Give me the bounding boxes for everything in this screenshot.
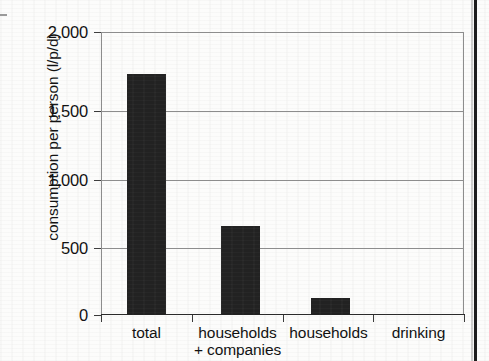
x-label-households: households — [283, 324, 374, 341]
y-tick-label-1500: 1,500 — [2, 103, 88, 120]
y-tick-mark-1500 — [94, 111, 101, 112]
x-tick-mark-right — [464, 315, 465, 322]
y-tick-mark-500 — [94, 248, 101, 249]
scan-corner-mark — [0, 14, 7, 16]
bar-chart: consumption per person (l/p/d) 2,000 1,5… — [0, 0, 474, 361]
x-label-total: total — [101, 324, 192, 341]
y-tick-mark-0 — [94, 315, 101, 316]
x-tick-mark-3 — [373, 315, 374, 322]
chart-screenshot: consumption per person (l/p/d) 2,000 1,5… — [0, 0, 489, 361]
bar-households-companies — [221, 226, 260, 315]
y-tick-mark-2000 — [94, 32, 101, 33]
x-label-households-line1: households — [289, 324, 367, 341]
page-edge-shadow — [471, 0, 473, 361]
y-tick-label-0: 0 — [2, 307, 88, 324]
x-label-households-companies: households + companies — [192, 324, 283, 358]
y-tick-label-1000: 1,000 — [2, 172, 88, 189]
y-tick-label-2000: 2,000 — [2, 24, 88, 41]
x-tick-mark-1 — [192, 315, 193, 322]
page-edge-rule — [474, 0, 477, 361]
x-label-total-line1: total — [132, 324, 161, 341]
y-tick-1500: 1,500 — [0, 111, 88, 112]
y-tick-mark-1000 — [94, 180, 101, 181]
bar-total — [127, 74, 166, 315]
bar-households — [311, 298, 350, 315]
x-label-households-companies-line2: + companies — [192, 341, 283, 358]
y-tick-500: 500 — [0, 248, 88, 249]
y-tick-1000: 1,000 — [0, 180, 88, 181]
y-tick-0: 0 — [0, 315, 88, 316]
y-tick-2000: 2,000 — [0, 32, 88, 33]
y-tick-label-500: 500 — [2, 240, 88, 257]
x-label-households-companies-line1: households — [198, 324, 276, 341]
x-label-drinking: drinking — [373, 324, 464, 341]
x-tick-mark-2 — [283, 315, 284, 322]
x-label-drinking-line1: drinking — [392, 324, 445, 341]
x-tick-mark-left — [101, 315, 102, 322]
